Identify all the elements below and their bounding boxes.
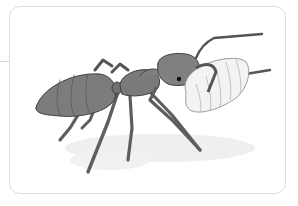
- ant-illustration: [0, 0, 298, 206]
- ant-eye-icon: [177, 77, 181, 81]
